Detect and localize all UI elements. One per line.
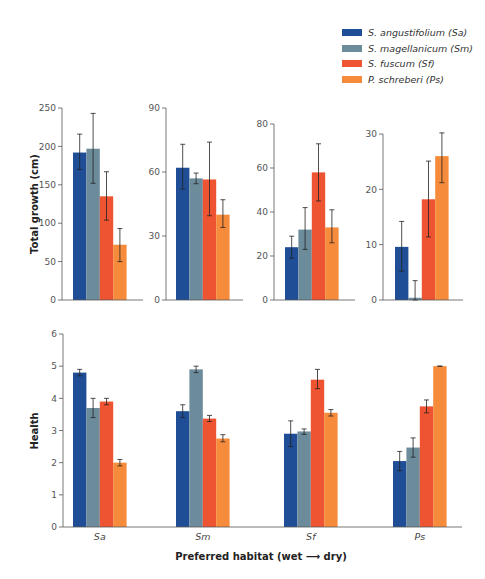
y-tick-label: 40 [257, 207, 269, 217]
bar-sm [406, 448, 419, 527]
bar-sf [203, 419, 216, 527]
total-growth-panels: 05010015020025003060900204060800102030 [39, 103, 463, 305]
y-tick-label: 60 [257, 163, 269, 173]
y-tick-label: 200 [39, 142, 56, 152]
y-tick-label: 30 [149, 231, 161, 241]
bar-ps [113, 463, 126, 527]
x-category-label: Ps [414, 531, 425, 542]
legend-swatch-sm [342, 45, 362, 52]
legend-swatch-ps [342, 76, 362, 83]
y-tick-label: 250 [39, 103, 56, 113]
y-tick-label: 60 [149, 167, 161, 177]
bar-sa [176, 411, 189, 527]
y-tick-label: 6 [51, 329, 57, 339]
legend: S. angustifolium (Sa) S. magellanicum (S… [342, 25, 473, 87]
growth-panel-sm: 0306090 [149, 103, 243, 305]
bar-sa [284, 434, 297, 527]
y-tick-label: 20 [257, 251, 269, 261]
bar-sa [73, 373, 86, 527]
legend-item-sf: S. fuscum (Sf) [342, 56, 473, 72]
y-tick-label: 20 [366, 185, 378, 195]
x-category-label: Sm [195, 531, 210, 542]
bar-sf [100, 402, 113, 527]
y-tick-label: 150 [39, 180, 56, 190]
x-category-label: Sf [306, 531, 317, 542]
legend-label-sm: S. magellanicum (Sm) [368, 43, 473, 54]
health-group-sf [284, 369, 338, 527]
legend-swatch-sf [342, 60, 362, 67]
health-axis-label: Health [29, 412, 40, 449]
health-panel: SaSmSfPs0123456 [51, 329, 462, 542]
y-tick-label: 30 [366, 129, 378, 139]
y-tick-label: 0 [371, 295, 377, 305]
figure: 05010015020025003060900204060800102030 S… [0, 0, 485, 579]
x-category-label: Sa [94, 531, 106, 542]
preferred-habitat-axis-label: Preferred habitat (wet ⟶ dry) [175, 551, 347, 562]
y-tick-label: 80 [257, 119, 269, 129]
y-tick-label: 3 [51, 426, 57, 436]
growth-panel-sf: 020406080 [257, 119, 355, 305]
bar-sm [297, 431, 310, 527]
legend-label-sf: S. fuscum (Sf) [368, 58, 435, 69]
y-tick-label: 1 [51, 490, 57, 500]
y-tick-label: 4 [51, 394, 57, 404]
y-tick-label: 90 [149, 103, 161, 113]
y-tick-label: 50 [45, 257, 57, 267]
growth-panel-ps: 0102030 [366, 129, 463, 305]
bar-ps [433, 366, 446, 527]
bar-sa [73, 153, 86, 300]
health-group-ps [393, 366, 447, 527]
y-tick-label: 0 [51, 522, 57, 532]
legend-item-ps: P. schreberi (Ps) [342, 72, 473, 88]
bar-sm [189, 178, 202, 300]
total-growth-axis-label: Total growth (cm) [29, 154, 40, 254]
legend-label-sa: S. angustifolium (Sa) [368, 27, 467, 38]
growth-panel-sa: 050100150200250 [39, 103, 143, 305]
legend-swatch-sa [342, 29, 362, 36]
y-tick-label: 0 [262, 295, 268, 305]
bar-sf [311, 380, 324, 527]
health-group-sm [176, 366, 230, 527]
bar-ps [216, 439, 229, 527]
health-group-sa [73, 369, 127, 527]
y-tick-label: 100 [39, 218, 56, 228]
bar-sm [86, 408, 99, 527]
y-tick-label: 2 [51, 458, 57, 468]
y-tick-label: 0 [154, 295, 160, 305]
y-tick-label: 10 [366, 240, 378, 250]
legend-label-ps: P. schreberi (Ps) [368, 74, 444, 85]
bar-sm [189, 369, 202, 527]
legend-item-sm: S. magellanicum (Sm) [342, 41, 473, 57]
bar-sf [420, 406, 433, 527]
bar-ps [324, 413, 337, 527]
legend-item-sa: S. angustifolium (Sa) [342, 25, 473, 41]
y-tick-label: 5 [51, 361, 57, 371]
y-tick-label: 0 [50, 295, 56, 305]
